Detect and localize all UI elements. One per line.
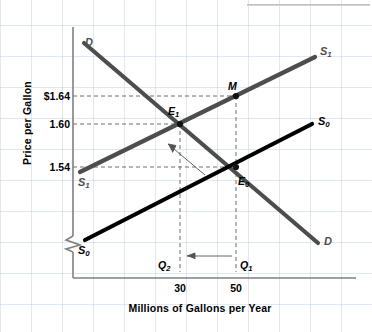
demand-curve-label-top: D xyxy=(85,36,93,48)
demand-label-top-text: D xyxy=(85,36,93,48)
point-label-E0: E0 xyxy=(238,175,249,187)
point-E0-base: E xyxy=(238,175,245,187)
q1-sub: 1 xyxy=(248,264,252,273)
point-E1-sub: 1 xyxy=(175,110,179,119)
demand-label-bottom-text: D xyxy=(324,235,332,247)
x-axis-title: Millions of Gallons per Year xyxy=(110,302,290,314)
supply0-bottom-sub: 0 xyxy=(85,249,89,258)
quantity-label-Q2: Q2 xyxy=(158,259,170,271)
supply-shifted-label-bottom-left: S1 xyxy=(78,176,90,188)
q1-base: Q xyxy=(240,259,248,271)
point-M-marker xyxy=(233,93,239,99)
point-label-M: M xyxy=(228,80,237,92)
supply-original-label-bottom-left: S0 xyxy=(78,244,90,256)
point-M-base: M xyxy=(228,80,237,92)
supply1-bottom-sub: 1 xyxy=(85,181,89,190)
y-tick-label-154: 1.54 xyxy=(8,161,70,173)
supply-demand-figure: Price per Gallon Millions of Gallons per… xyxy=(0,0,372,332)
supply-original-label-top-right: S0 xyxy=(318,115,330,127)
q2-sub: 2 xyxy=(166,264,170,273)
demand-curve-label-bottom: D xyxy=(324,235,332,247)
reference-lines xyxy=(73,96,236,272)
point-E1-marker xyxy=(177,121,183,127)
supply0-top-sub: 0 xyxy=(325,120,329,129)
supply1-top-sub: 1 xyxy=(327,50,331,59)
supply-shift-arrow xyxy=(168,144,205,175)
x-tick-label-50: 50 xyxy=(216,282,256,294)
supply-shifted-label-top-right: S1 xyxy=(320,45,332,57)
q2-base: Q xyxy=(158,259,166,271)
point-E0-marker xyxy=(233,164,239,170)
x-tick-label-30: 30 xyxy=(160,282,200,294)
y-tick-label-160: 1.60 xyxy=(8,118,70,130)
quantity-decrease-arrow xyxy=(187,253,232,259)
quantity-label-Q1: Q1 xyxy=(240,259,252,271)
y-tick-label-164: $1.64 xyxy=(8,90,70,102)
point-E0-sub: 0 xyxy=(245,180,249,189)
point-label-E1: E1 xyxy=(168,105,179,117)
point-E1-base: E xyxy=(168,105,175,117)
supply-shifted-curve xyxy=(80,57,315,172)
